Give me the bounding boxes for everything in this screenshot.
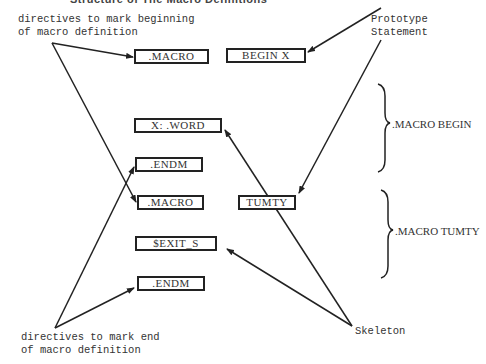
arrow-skeleton-to-exits [227,249,352,326]
arrow-end-to-endm2 [55,288,134,328]
box-endm-1: .ENDM [135,157,203,172]
brace-macro-tumty [381,190,393,278]
box-macro-1: .MACRO [134,49,209,64]
box-begin-x: BEGIN X [226,48,306,63]
arrow-skeleton-to-xword [225,130,352,326]
end-directives-label-line1: directives to mark end [21,331,160,343]
box-tumty: TUMTY [238,195,296,210]
arrow-prototype-to-beginx [308,8,381,52]
arrow-prototype-to-tumty [299,40,381,193]
box-endm-2: .ENDM [137,276,205,291]
brace-label-macro-tumty: .MACRO TUMTY [395,225,480,237]
skeleton-label: Skeleton [355,325,405,337]
arrow-begin-to-macro2 [52,43,136,202]
arrow-begin-to-macro1 [52,43,133,57]
brace-macro-begin [378,84,390,172]
arrow-end-to-endm1 [55,167,134,328]
box-macro-2: .MACRO [137,195,204,210]
end-directives-label-line2: of macro definition [21,344,141,356]
brace-label-macro-begin: .MACRO BEGIN [392,118,471,130]
box-x-word: X: .WORD [134,118,222,133]
box-exit-s: $EXIT_S [135,236,217,251]
